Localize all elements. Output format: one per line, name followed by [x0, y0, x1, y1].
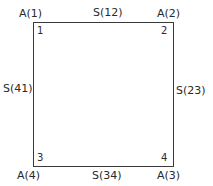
corner-label-top-right: A(2): [157, 8, 180, 20]
node-number-3: 3: [37, 152, 43, 163]
side-label-bottom: S(34): [92, 170, 122, 182]
node-number-4: 4: [161, 152, 167, 163]
square-outline: [33, 22, 174, 167]
corner-label-bottom-right: A(3): [157, 170, 180, 182]
node-number-2: 2: [161, 25, 167, 36]
side-label-top: S(12): [93, 7, 123, 19]
side-label-left: S(41): [3, 83, 33, 95]
side-label-right: S(23): [176, 85, 206, 97]
corner-label-bottom-left: A(4): [17, 170, 40, 182]
corner-label-top-left: A(1): [19, 8, 42, 20]
node-number-1: 1: [37, 25, 43, 36]
